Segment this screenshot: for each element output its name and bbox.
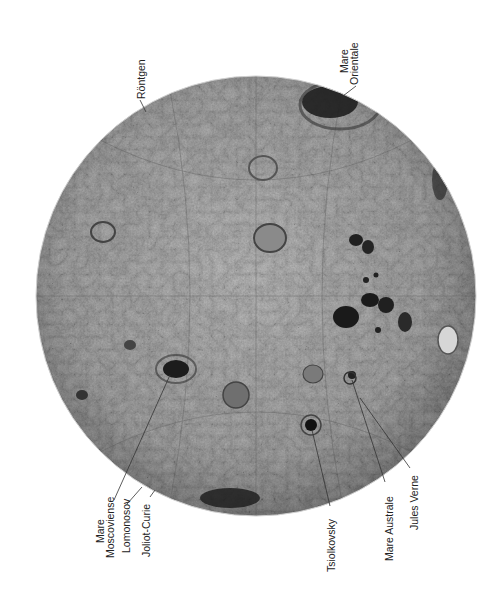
label-mare-orientale: Mare Orientale bbox=[338, 42, 360, 96]
leader-line bbox=[150, 490, 155, 497]
label-text: Tsiolkovsky bbox=[325, 518, 337, 572]
label-joliot-curie: Joliot-Curie bbox=[140, 490, 155, 557]
leader-line bbox=[343, 86, 356, 96]
moon-globe bbox=[36, 76, 476, 516]
mare-moscoviense-basin bbox=[163, 360, 189, 378]
korolev-basin bbox=[254, 224, 286, 252]
label-text: Lomonosov bbox=[120, 498, 132, 553]
label-rontgen: Röntgen bbox=[135, 59, 147, 112]
moon-far-side-map: Röntgen Mare Orientale Mare Moscoviense … bbox=[0, 0, 500, 603]
label-lomonosov: Lomonosov bbox=[120, 487, 142, 553]
mare-australe-region bbox=[333, 306, 359, 328]
label-text: Joliot-Curie bbox=[140, 504, 152, 557]
tsiolkovsky-crater bbox=[305, 419, 317, 431]
label-text: Röntgen bbox=[135, 59, 147, 99]
label-text: Mare Australe bbox=[383, 496, 395, 561]
label-text-line-2: Orientale bbox=[348, 42, 360, 85]
label-text: Jules Verne bbox=[408, 475, 420, 530]
label-text-line-2: Moscoviense bbox=[104, 497, 116, 558]
